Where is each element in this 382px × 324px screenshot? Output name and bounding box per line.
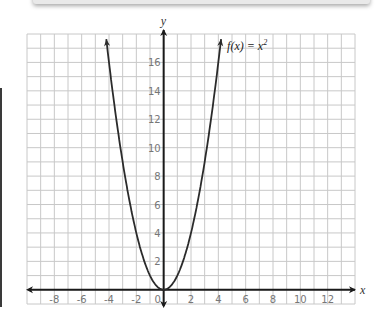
function-label-exponent: 2 [263,38,267,47]
y-tick-label: 8 [154,171,160,182]
grid [27,34,355,304]
x-tick-label: -2 [131,294,141,305]
x-tick-label: 0 [154,294,160,305]
x-tick-label: 6 [242,294,248,305]
y-tick-label: 14 [148,86,161,97]
y-tick-label: 4 [154,228,160,239]
y-axis-label: y [160,14,167,28]
x-axis-label: x [359,283,366,297]
x-tick-label: -8 [49,294,59,305]
x-tick-label: 2 [188,294,194,305]
x-tick-label: -6 [77,294,87,305]
x-tick-label: 10 [294,294,307,305]
y-tick-label: 2 [154,256,160,267]
x-tick-label: 4 [215,294,221,305]
y-tick-label: 6 [154,200,160,211]
x-tick-label: 8 [270,294,276,305]
x-tick-label: -4 [104,294,114,305]
parabola-chart: -8-6-4-2024681012246810121416 x y f(x) =… [0,0,382,324]
y-tick-label: 16 [148,57,161,68]
y-tick-label: 12 [148,114,161,125]
function-label-base: f(x) = x [227,39,264,53]
y-tick-label: 10 [148,143,161,154]
tick-labels: -8-6-4-2024681012246810121416 [49,57,334,304]
x-tick-label: 12 [321,294,334,305]
function-label: f(x) = x2 [227,38,267,53]
